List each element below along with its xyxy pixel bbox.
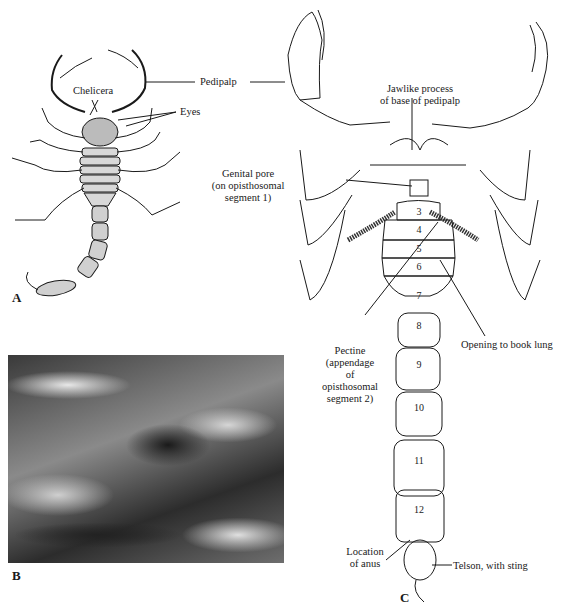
segment-number: 11 xyxy=(404,455,434,466)
genital-pore-leader xyxy=(346,180,412,186)
segment-number: 8 xyxy=(404,320,434,331)
segment-number: 6 xyxy=(404,261,434,272)
label-genital-pore: Genital pore (on opisthosomal segment 1) xyxy=(208,168,288,204)
segment-number: 5 xyxy=(404,243,434,254)
scorpion-photograph xyxy=(8,355,284,563)
book-lung-leader xyxy=(440,260,485,336)
label-anus: Location of anus xyxy=(340,546,390,570)
label-book-lung: Opening to book lung xyxy=(461,339,553,351)
panel-letter-a: A xyxy=(12,290,21,306)
label-pectine: Pectine (appendage of opisthosomal segme… xyxy=(320,345,380,405)
segment-number: 10 xyxy=(404,402,434,413)
label-eyes: Eyes xyxy=(180,106,200,118)
segment-number: 12 xyxy=(404,504,434,515)
segment-number: 4 xyxy=(404,224,434,235)
label-chelicera: Chelicera xyxy=(73,85,113,97)
label-telson: Telson, with sting xyxy=(453,560,528,572)
segment-number: 7 xyxy=(404,290,434,301)
label-jawlike-process: Jawlike process of base of pedipalp xyxy=(370,83,470,107)
segment-number: 3 xyxy=(404,206,434,217)
panel-letter-b: B xyxy=(12,568,21,584)
panel-letter-c: C xyxy=(400,590,409,606)
label-pedipalp: Pedipalp xyxy=(200,76,237,88)
segment-number: 9 xyxy=(404,359,434,370)
eyes-leader-1 xyxy=(118,112,176,120)
